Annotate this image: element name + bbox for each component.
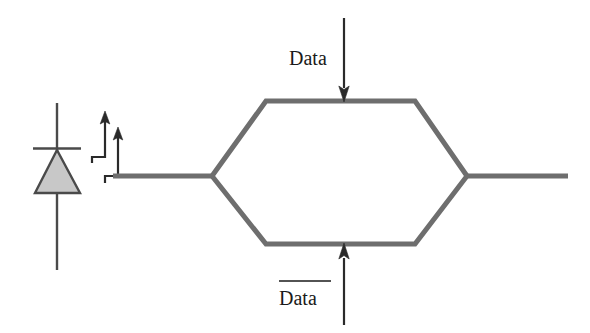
- diode-triangle: [35, 150, 80, 193]
- data-in-arrow-bottom: [339, 243, 349, 325]
- data-bus-hexagon: [212, 101, 467, 244]
- diode-symbol: [33, 103, 81, 270]
- bottom-data-label: Data: [279, 287, 317, 309]
- clock-step-arrows: [92, 111, 123, 183]
- signal-diagram: Data Data: [0, 0, 590, 333]
- clock-step-arrow-1: [92, 111, 110, 163]
- diagram-canvas: Data Data: [0, 0, 590, 333]
- bottom-data-label-group: Data: [279, 281, 331, 309]
- data-in-arrow-top: [339, 18, 349, 102]
- top-data-label: Data: [289, 47, 327, 69]
